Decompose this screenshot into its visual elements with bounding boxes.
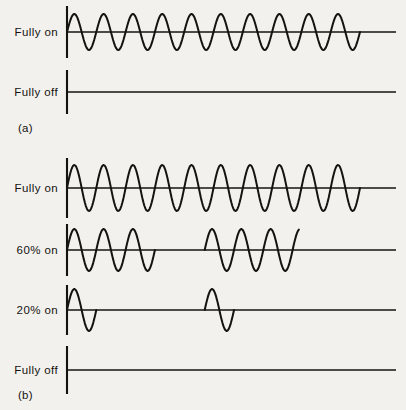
row-b-sixty-percent-on: [67, 224, 396, 276]
row-label-a-fully-off: Fully off: [0, 86, 58, 98]
row-label-b-fully-on: Fully on: [0, 182, 58, 194]
row-a-fully-off: [67, 70, 396, 114]
waveform-figure: Fully onFully off(a)Fully on60% on20% on…: [0, 0, 406, 410]
panel-a: [67, 6, 396, 114]
waveform-a-fully-on-burst-0: [67, 14, 360, 50]
row-b-fully-off: [67, 346, 396, 394]
row-b-fully-on: [67, 158, 396, 218]
row-label-b-sixty-percent-on: 60% on: [0, 244, 58, 256]
waveform-b-fully-on-burst-0: [67, 165, 360, 211]
waveform-canvas: [0, 0, 406, 410]
row-label-b-fully-off: Fully off: [0, 364, 58, 376]
panel-caption-a: (a): [18, 122, 33, 134]
row-label-b-twenty-percent-on: 20% on: [0, 304, 58, 316]
row-a-fully-on: [67, 6, 396, 58]
panel-b: [67, 158, 396, 394]
panel-caption-b: (b): [18, 389, 33, 401]
row-b-twenty-percent-on: [67, 285, 396, 335]
row-label-a-fully-on: Fully on: [0, 26, 58, 38]
